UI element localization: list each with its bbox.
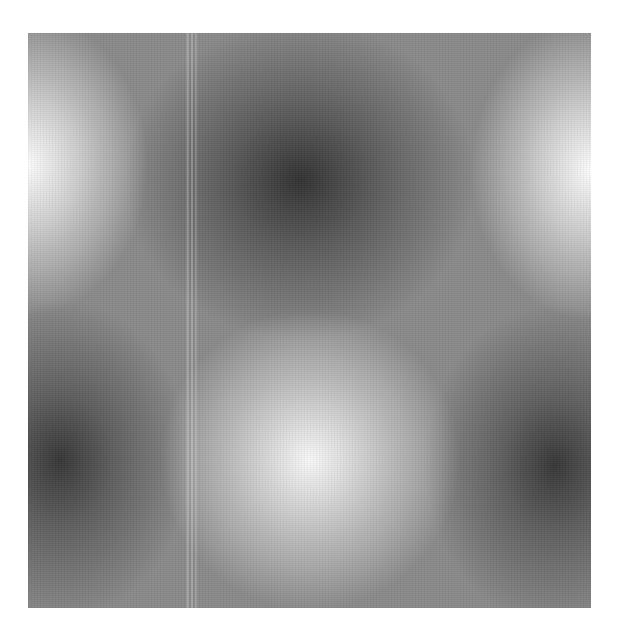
grain-texture bbox=[28, 33, 591, 608]
vertical-stripe-artifact bbox=[186, 33, 200, 608]
interference-pattern-image bbox=[28, 33, 591, 608]
page-canvas bbox=[0, 0, 630, 639]
